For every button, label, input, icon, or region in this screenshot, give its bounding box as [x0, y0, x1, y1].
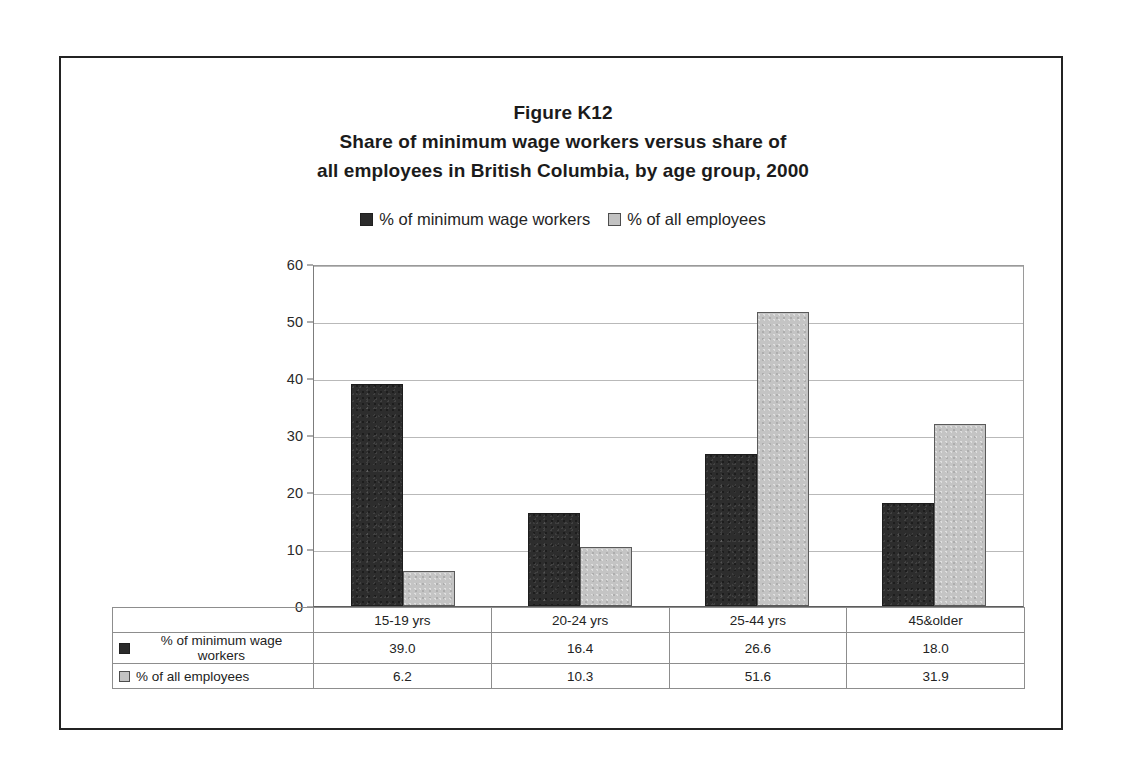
legend-entry-all-employees: % of all employees: [608, 210, 766, 229]
table-series-label: % of all employees: [136, 669, 249, 684]
data-table-body: % of minimum wage workers39.016.426.618.…: [113, 633, 1025, 689]
table-value-cell: 31.9: [847, 664, 1025, 689]
table-value-cell: 39.0: [314, 633, 492, 664]
bar-group: [846, 266, 1023, 606]
legend-entry-minimum-wage-workers: % of minimum wage workers: [360, 210, 590, 229]
y-axis-tick-label: 20: [287, 485, 303, 501]
y-axis-tick-mark: [307, 493, 313, 494]
y-axis-tick-mark: [307, 550, 313, 551]
figure-title-line-1: Share of minimum wage workers versus sha…: [61, 127, 1065, 156]
chart-legend: % of minimum wage workers % of all emplo…: [61, 210, 1065, 229]
table-row: % of all employees6.210.351.631.9: [113, 664, 1025, 689]
table-value-cell: 10.3: [491, 664, 669, 689]
y-axis-tick-mark: [307, 322, 313, 323]
y-axis-tick-label: 30: [287, 428, 303, 444]
figure-frame: Figure K12 Share of minimum wage workers…: [59, 56, 1063, 730]
table-series-label-cell: % of all employees: [113, 664, 314, 689]
bar-group: [669, 266, 846, 606]
bar: [351, 384, 403, 606]
y-axis-tick-label: 60: [287, 257, 303, 273]
table-series-label: % of minimum wage workers: [136, 633, 307, 663]
bar-group: [314, 266, 491, 606]
table-col-header: 20-24 yrs: [491, 608, 669, 633]
y-axis-tick-label: 50: [287, 314, 303, 330]
bar: [934, 424, 986, 606]
table-col-header: 25-44 yrs: [669, 608, 847, 633]
light-square-icon: [608, 213, 621, 226]
table-value-cell: 51.6: [669, 664, 847, 689]
data-table: 15-19 yrs 20-24 yrs 25-44 yrs 45&older %…: [112, 607, 1025, 689]
table-header-row: 15-19 yrs 20-24 yrs 25-44 yrs 45&older: [113, 608, 1025, 633]
y-axis-tick-mark: [307, 265, 313, 266]
y-axis-tick-label: 10: [287, 542, 303, 558]
table-col-header: 15-19 yrs: [314, 608, 492, 633]
light-square-icon: [119, 671, 130, 682]
table-value-cell: 18.0: [847, 633, 1025, 664]
y-axis-tick-mark: [307, 379, 313, 380]
legend-label-minimum-wage-workers: % of minimum wage workers: [379, 210, 590, 229]
table-value-cell: 16.4: [491, 633, 669, 664]
bar: [705, 454, 757, 606]
table-row: % of minimum wage workers39.016.426.618.…: [113, 633, 1025, 664]
bar: [528, 513, 580, 606]
table-value-cell: 6.2: [314, 664, 492, 689]
table-col-header: 45&older: [847, 608, 1025, 633]
dark-square-icon: [119, 643, 130, 654]
data-table-wrapper: 15-19 yrs 20-24 yrs 25-44 yrs 45&older %…: [112, 607, 1024, 689]
y-axis-tick-label: 40: [287, 371, 303, 387]
bar: [757, 312, 809, 606]
table-series-label-cell: % of minimum wage workers: [113, 633, 314, 664]
table-value-cell: 26.6: [669, 633, 847, 664]
dark-square-icon: [360, 213, 373, 226]
table-corner-cell: [113, 608, 314, 633]
bar: [580, 547, 632, 606]
bar: [882, 503, 934, 606]
chart-plot-area: [313, 265, 1024, 607]
bar-group: [491, 266, 668, 606]
legend-label-all-employees: % of all employees: [627, 210, 766, 229]
figure-number: Figure K12: [61, 98, 1065, 127]
chart-plot-wrapper: 0102030405060: [313, 265, 1024, 607]
bars-layer: [314, 266, 1023, 606]
figure-title-block: Figure K12 Share of minimum wage workers…: [61, 98, 1065, 185]
y-axis-tick-mark: [307, 436, 313, 437]
figure-title-line-2: all employees in British Columbia, by ag…: [61, 156, 1065, 185]
bar: [403, 571, 455, 606]
